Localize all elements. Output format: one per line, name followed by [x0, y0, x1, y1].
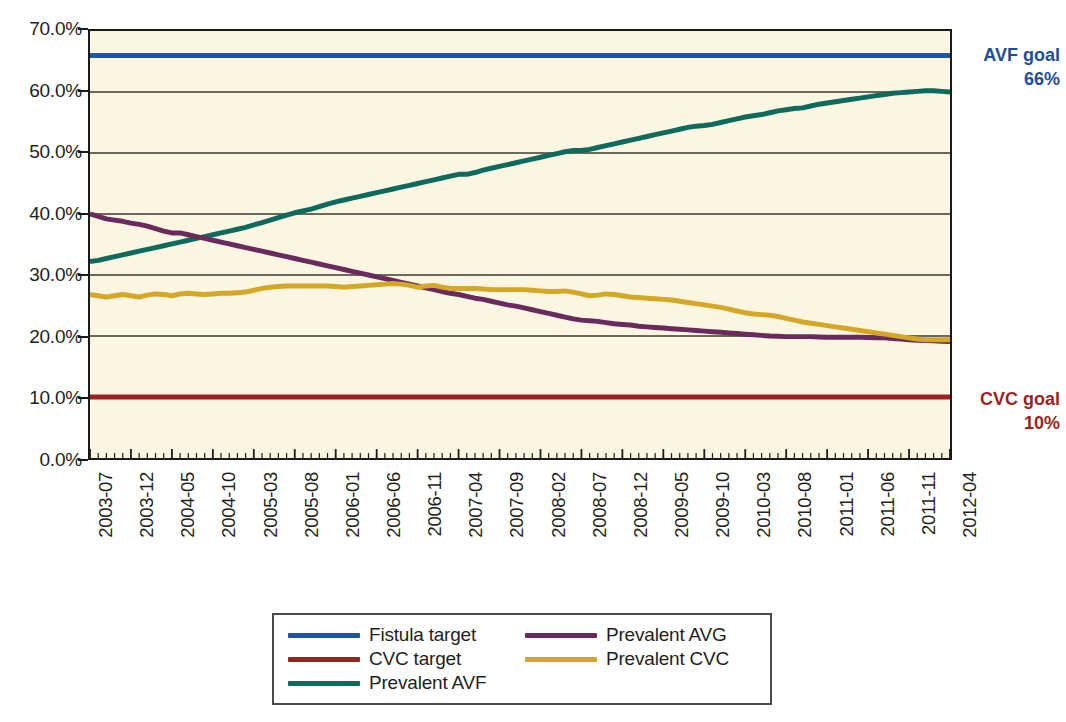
cvc-goal-annotation: CVC goal 10% — [956, 388, 1060, 436]
y-tick-label: 20.0% — [0, 326, 82, 348]
legend-swatch-icon — [288, 657, 360, 662]
y-tick-mark — [78, 397, 88, 399]
legend-swatch-icon — [288, 633, 360, 638]
x-tick-label: 2008-02 — [548, 472, 570, 538]
series-line-prevalent-cvc — [90, 284, 950, 340]
plot-area — [88, 29, 952, 460]
x-tick-label: 2010-08 — [794, 472, 816, 538]
legend-label: Prevalent AVF — [369, 672, 486, 694]
legend-label: CVC target — [369, 648, 461, 670]
legend-swatch-icon — [288, 681, 360, 686]
avf-goal-line1: AVF goal — [983, 45, 1060, 65]
legend-grid: Fistula targetCVC targetPrevalent AVFPre… — [288, 623, 756, 695]
x-tick-label: 2011-01 — [836, 472, 858, 536]
legend-swatch-icon — [525, 633, 597, 638]
y-axis: 0.0%10.0%20.0%30.0%40.0%50.0%60.0%70.0% — [0, 0, 82, 722]
avf-goal-annotation: AVF goal 66% — [956, 44, 1060, 92]
y-tick-mark — [78, 336, 88, 338]
series-line-prevalent-avf — [90, 91, 950, 262]
y-tick-label: 10.0% — [0, 387, 82, 409]
x-tick-label: 2009-05 — [671, 472, 693, 538]
legend: Fistula targetCVC targetPrevalent AVFPre… — [272, 613, 772, 705]
x-tick-label: 2004-10 — [218, 472, 240, 538]
x-tick-label: 2007-09 — [506, 472, 528, 538]
x-tick-label: 2004-05 — [177, 472, 199, 538]
legend-item-prevalent-avf[interactable]: Prevalent AVF — [288, 671, 519, 695]
y-tick-label: 50.0% — [0, 141, 82, 163]
x-tick-label: 2006-11 — [424, 472, 446, 536]
legend-item-cvc-target[interactable]: CVC target — [288, 647, 519, 671]
x-tick-label: 2006-06 — [383, 472, 405, 538]
y-tick-mark — [78, 274, 88, 276]
x-axis: 2003-072003-122004-052004-102005-032005-… — [0, 468, 1066, 588]
x-tick-label: 2009-10 — [712, 472, 734, 538]
y-tick-mark — [78, 151, 88, 153]
x-tick-label: 2005-03 — [260, 472, 282, 538]
x-tick-label: 2003-07 — [95, 472, 117, 538]
legend-item-prevalent-cvc[interactable]: Prevalent CVC — [525, 647, 756, 671]
x-tick-label: 2010-03 — [753, 472, 775, 538]
x-tick-label: 2006-01 — [342, 472, 364, 538]
y-tick-mark — [78, 90, 88, 92]
chart-page: 0.0%10.0%20.0%30.0%40.0%50.0%60.0%70.0% … — [0, 0, 1066, 722]
y-tick-label: 30.0% — [0, 264, 82, 286]
x-tick-label: 2008-12 — [630, 472, 652, 538]
y-tick-label: 70.0% — [0, 18, 82, 40]
x-tick-label: 2011-06 — [877, 472, 899, 536]
legend-item-fistula-target[interactable]: Fistula target — [288, 623, 519, 647]
x-tick-label: 2005-08 — [301, 472, 323, 538]
x-tick-label: 2012-04 — [959, 472, 981, 538]
legend-swatch-icon — [525, 657, 597, 662]
y-tick-label: 40.0% — [0, 203, 82, 225]
legend-label: Prevalent CVC — [606, 648, 729, 670]
x-tick-label: 2003-12 — [136, 472, 158, 538]
legend-label: Fistula target — [369, 624, 476, 646]
y-tick-mark — [78, 213, 88, 215]
y-tick-label: 60.0% — [0, 80, 82, 102]
avf-goal-line2: 66% — [956, 68, 1060, 92]
legend-label: Prevalent AVG — [606, 624, 727, 646]
y-tick-mark — [78, 459, 88, 461]
x-tick-label: 2007-04 — [465, 472, 487, 538]
plot-svg — [90, 31, 950, 458]
cvc-goal-line2: 10% — [956, 412, 1060, 436]
legend-item-prevalent-avg[interactable]: Prevalent AVG — [525, 623, 756, 647]
cvc-goal-line1: CVC goal — [980, 389, 1060, 409]
x-tick-label: 2008-07 — [589, 472, 611, 538]
y-tick-mark — [78, 28, 88, 30]
x-tick-label: 2011-11 — [918, 472, 940, 535]
